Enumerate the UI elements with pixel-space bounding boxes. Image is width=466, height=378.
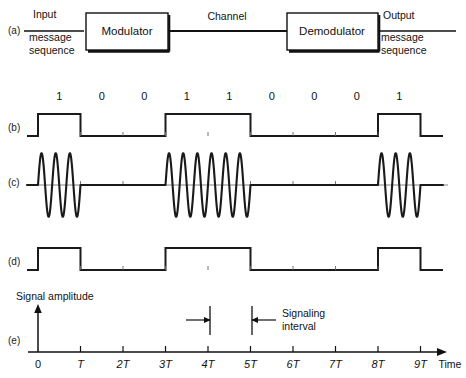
figure-ask-modulation: (a) Input message sequence Modulator Cha… [0, 0, 466, 378]
row-label-b: (b) [8, 122, 20, 133]
waveform-input-sequence [27, 114, 443, 136]
channel-label: Channel [207, 10, 246, 22]
bit-digit-group: 100110001 [56, 90, 402, 102]
bit-digit: 0 [269, 90, 275, 102]
row-a-block-diagram: (a) Input message sequence Modulator Cha… [8, 8, 456, 56]
row-c-modulated-wave: (c) [8, 153, 448, 217]
row-label-d: (d) [8, 256, 20, 267]
signaling-interval-annotation: Signaling interval [186, 306, 325, 335]
time-axis-tick-label: 2T [116, 358, 131, 370]
bit-digit: 1 [226, 90, 232, 102]
time-axis-tick-label: 5T [244, 358, 258, 370]
amplitude-axis-label: Signal amplitude [16, 290, 94, 302]
row-label-a: (a) [8, 25, 20, 36]
demodulator-label: Demodulator [299, 25, 365, 37]
time-axis-arrow [437, 348, 447, 356]
row-d-output-sequence: (d) [8, 248, 443, 270]
row-label-e: (e) [8, 335, 20, 346]
time-axis-tick-label: 3T [159, 358, 173, 370]
output-label-line1: Output [383, 9, 415, 21]
signaling-interval-label-line1: Signaling [282, 307, 325, 319]
bit-digit: 1 [396, 90, 402, 102]
time-axis-tick-label: 7T [329, 358, 343, 370]
time-axis-tick-label: 9T [414, 358, 428, 370]
input-label-line2: message [29, 31, 72, 43]
output-label-line2: message [381, 31, 424, 43]
input-label-line1: Input [33, 8, 56, 20]
bit-digit: 1 [184, 90, 190, 102]
waveform-output-sequence [27, 248, 443, 270]
output-label-line3: sequence [381, 44, 427, 56]
time-axis-tick-label: 6T [287, 358, 301, 370]
bit-digit: 0 [99, 90, 105, 102]
time-axis-label: Time [439, 358, 462, 370]
time-axis-tick-label: 0 [35, 358, 41, 370]
bit-digit: 0 [141, 90, 147, 102]
modulator-label: Modulator [101, 25, 152, 37]
row-e-time-axis: (e) Signal amplitude Time 0T2T3T4T5T6T7T… [8, 290, 462, 370]
time-axis-tick-label: 4T [202, 358, 216, 370]
time-axis-tick-label: 8T [372, 358, 386, 370]
row-label-c: (c) [8, 177, 20, 188]
signaling-interval-label-line2: interval [282, 320, 316, 332]
bit-digit: 1 [56, 90, 62, 102]
bit-digit: 0 [311, 90, 317, 102]
bit-digit: 0 [354, 90, 360, 102]
row-b-input-sequence: (b) 100110001 [8, 90, 443, 136]
time-axis-tick-group: 0T2T3T4T5T6T7T8T9T [35, 346, 428, 370]
amplitude-axis-arrow [34, 304, 42, 313]
input-label-line3: sequence [29, 44, 75, 56]
time-axis-tick-label: T [77, 358, 85, 370]
